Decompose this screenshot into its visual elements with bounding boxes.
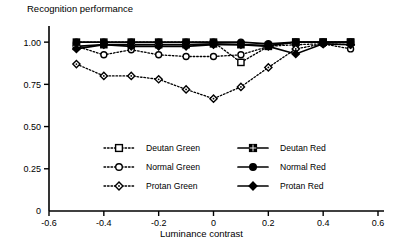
- open-circle-marker: [183, 53, 189, 59]
- x-tick-label: -0.2: [151, 218, 167, 228]
- open-square-marker: [116, 145, 123, 152]
- legend-item: Protan Red: [238, 181, 324, 191]
- open-circle-marker: [101, 52, 107, 58]
- open-circle-marker: [116, 164, 123, 171]
- legend-label: Deutan Red: [280, 143, 326, 153]
- filled-diamond-marker: [292, 50, 299, 57]
- filled-diamond-marker: [249, 182, 257, 190]
- legend-label: Normal Green: [146, 162, 200, 172]
- x-tick-label: -0.6: [41, 218, 57, 228]
- x-tick-label: 0.6: [372, 218, 385, 228]
- series-protan-green: [73, 40, 354, 102]
- y-tick-label: 0.50: [23, 122, 41, 132]
- filled-circle-marker: [250, 164, 257, 171]
- marker-detail: [103, 75, 105, 77]
- marker-detail: [76, 63, 78, 65]
- filled-circle-marker: [73, 39, 79, 45]
- legend-label: Protan Green: [146, 181, 198, 191]
- filled-circle-marker: [293, 39, 299, 45]
- legend-label: Protan Red: [280, 181, 324, 191]
- open-square-marker: [238, 59, 244, 65]
- marker-detail: [185, 89, 187, 91]
- recognition-performance-chart: Recognition performance 00.250.500.751.0…: [0, 0, 403, 248]
- x-tick-label: 0.2: [262, 218, 275, 228]
- marker-detail: [130, 75, 132, 77]
- open-circle-marker: [211, 53, 217, 59]
- marker-detail: [158, 78, 160, 80]
- chart-legend: Deutan GreenDeutan RedNormal GreenNormal…: [104, 143, 326, 191]
- legend-item: Deutan Green: [104, 143, 200, 153]
- x-tick-label: 0.4: [317, 218, 330, 228]
- open-circle-marker: [238, 52, 244, 58]
- marker-detail: [213, 98, 215, 100]
- chart-plot-area: 00.250.500.751.00-0.6-0.4-0.200.20.40.6D…: [0, 0, 403, 248]
- y-tick-label: 1.00: [23, 38, 41, 48]
- y-tick-label: 0.75: [23, 80, 41, 90]
- legend-label: Normal Red: [280, 162, 326, 172]
- x-tick-label: 0: [211, 218, 216, 228]
- legend-item: Normal Green: [104, 162, 200, 172]
- legend-item: Protan Green: [104, 181, 198, 191]
- open-circle-marker: [156, 52, 162, 58]
- x-axis-title: Luminance contrast: [0, 228, 403, 239]
- marker-detail: [240, 86, 242, 88]
- legend-label: Deutan Green: [146, 143, 200, 153]
- x-tick-label: -0.4: [96, 218, 112, 228]
- y-tick-label: 0.25: [23, 164, 41, 174]
- marker-detail: [118, 185, 120, 187]
- legend-item: Deutan Red: [238, 143, 326, 153]
- legend-item: Normal Red: [238, 162, 326, 172]
- y-tick-label: 0: [36, 206, 41, 216]
- marker-detail: [267, 67, 269, 69]
